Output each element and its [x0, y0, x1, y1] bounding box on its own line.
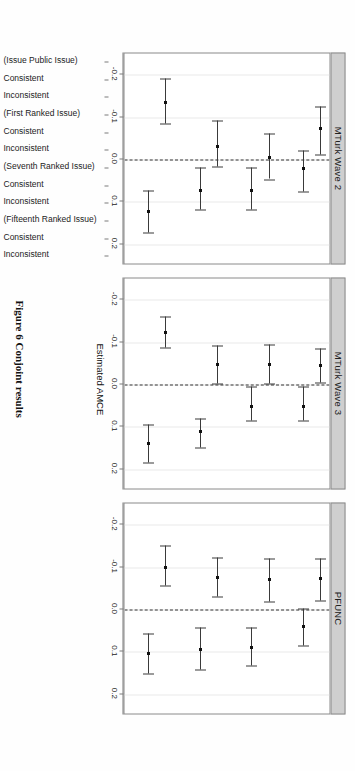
category-tick	[104, 114, 108, 115]
error-bar-cap-lower	[160, 545, 171, 546]
error-bar-point	[263, 503, 275, 714]
category-label: Consistent	[3, 231, 43, 241]
panel-mturk-wave-3: MTurk Wave 3	[123, 277, 345, 489]
category-label: Inconsistent	[3, 195, 48, 205]
error-bar-cap-lower	[315, 558, 326, 559]
x-axis-tick-label: 0.0	[109, 152, 118, 163]
error-bar-cap-lower	[142, 190, 153, 191]
estimate-point	[146, 652, 149, 655]
error-bar-point	[245, 53, 257, 264]
x-axis-tick-label: -0.1	[109, 559, 118, 573]
category-tick	[104, 220, 108, 221]
error-bar-point	[297, 53, 309, 264]
error-bar-cap-upper	[315, 600, 326, 601]
category-tick	[104, 185, 108, 186]
error-bar-cap-upper	[315, 382, 326, 383]
x-axis-tick-label: -0.2	[109, 291, 118, 305]
category-label: Consistent	[3, 178, 43, 188]
error-bar-cap-upper	[246, 420, 257, 421]
panel-plot-box	[123, 52, 330, 264]
estimate-point	[146, 442, 149, 445]
error-bar-cap-lower	[315, 106, 326, 107]
plot-area: MTurk Wave 2-0.2-0.10.00.10.2MTurk Wave …	[0, 0, 355, 771]
rotated-page-wrapper: MTurk Wave 2-0.2-0.10.00.10.2MTurk Wave …	[0, 0, 355, 771]
x-axis-tick	[119, 116, 123, 117]
category-tick	[104, 255, 108, 256]
estimate-point	[267, 578, 270, 581]
category-label: Consistent	[3, 125, 43, 135]
x-axis-tick-label: -0.2	[109, 516, 118, 530]
x-axis-tick	[119, 298, 123, 299]
estimate-point	[267, 362, 270, 365]
category-tick	[104, 132, 108, 133]
error-bar-cap-upper	[211, 383, 222, 384]
estimate-point	[250, 405, 253, 408]
error-bar-cap-upper	[160, 585, 171, 586]
x-axis-tick-label: -0.2	[109, 66, 118, 80]
error-bar-cap-upper	[211, 166, 222, 167]
panel-strip-label: MTurk Wave 3	[330, 277, 345, 489]
x-axis-tick	[119, 650, 123, 651]
x-axis-tick-label: 0.1	[109, 645, 118, 656]
estimate-point	[215, 145, 218, 148]
error-bar-cap-lower	[194, 418, 205, 419]
error-bar-line	[251, 386, 252, 421]
error-bar-point	[245, 503, 257, 714]
error-bar-cap-upper	[315, 154, 326, 155]
error-bar-point	[314, 503, 326, 714]
category-label: Inconsistent	[3, 248, 48, 258]
error-bar-cap-upper	[160, 123, 171, 124]
category-label: Inconsistent	[3, 142, 48, 152]
error-bar-cap-lower	[298, 150, 309, 151]
x-axis-tick	[119, 523, 123, 524]
error-bar-cap-lower	[211, 345, 222, 346]
error-bar-point	[297, 503, 309, 714]
x-axis-tick-label: 0.2	[109, 462, 118, 473]
error-bar-cap-upper	[142, 462, 153, 463]
estimate-point	[146, 209, 149, 212]
error-bar-point	[159, 503, 171, 714]
x-axis-tick	[119, 566, 123, 567]
estimate-point	[250, 188, 253, 191]
x-axis-tick	[119, 73, 123, 74]
x-axis-tick-label: 0.2	[109, 687, 118, 698]
error-bar-point	[263, 53, 275, 264]
error-bar-point	[211, 53, 223, 264]
error-bar-cap-upper	[263, 601, 274, 602]
estimate-point	[319, 127, 322, 130]
x-axis-tick	[119, 693, 123, 694]
error-bar-cap-lower	[194, 627, 205, 628]
error-bar-cap-lower	[160, 316, 171, 317]
category-tick	[104, 96, 108, 97]
error-bar-cap-upper	[246, 209, 257, 210]
estimate-point	[302, 167, 305, 170]
error-bar-cap-lower	[263, 558, 274, 559]
estimate-point	[319, 577, 322, 580]
x-axis-tick-label: 0.1	[109, 195, 118, 206]
estimate-point	[164, 566, 167, 569]
x-axis-tick	[119, 243, 123, 244]
x-axis-tick	[119, 608, 123, 609]
x-axis-tick	[119, 383, 123, 384]
error-bar-point	[245, 278, 257, 489]
error-bar-cap-upper	[263, 179, 274, 180]
category-tick	[104, 167, 108, 168]
error-bar-point	[194, 53, 206, 264]
x-axis-tick	[119, 200, 123, 201]
error-bar-cap-upper	[298, 645, 309, 646]
figure-conjoint-results: MTurk Wave 2-0.2-0.10.00.10.2MTurk Wave …	[0, 0, 355, 771]
error-bar-point	[263, 278, 275, 489]
estimate-point	[215, 362, 218, 365]
error-bar-cap-upper	[142, 232, 153, 233]
error-bar-point	[211, 278, 223, 489]
panel-mturk-wave-2: MTurk Wave 2	[123, 52, 345, 264]
category-tick	[104, 202, 108, 203]
estimate-point	[215, 575, 218, 578]
estimate-point	[267, 155, 270, 158]
estimate-point	[250, 646, 253, 649]
x-axis-tick	[119, 158, 123, 159]
error-bar-point	[142, 278, 154, 489]
category-label: (First Ranked Issue)	[3, 107, 80, 117]
figure-caption: Figure 6 Conjoint results	[13, 300, 25, 417]
error-bar-cap-upper	[194, 447, 205, 448]
